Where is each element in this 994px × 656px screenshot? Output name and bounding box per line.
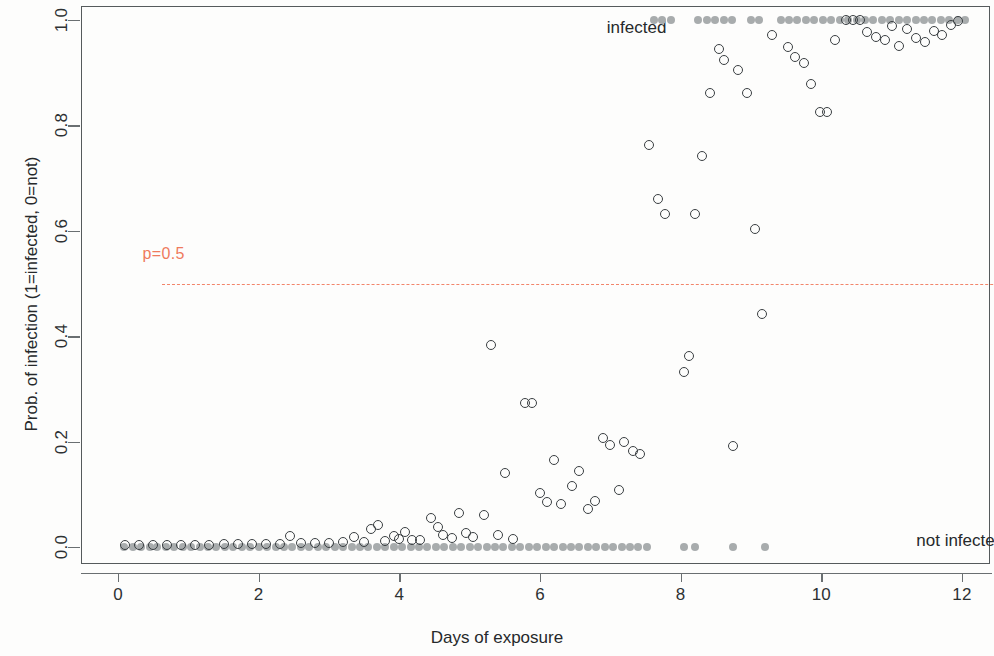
observed-outcome-marker	[761, 543, 769, 551]
observed-outcome-marker	[680, 543, 688, 551]
chart-canvas: p=0.5 infected not infected 024681012 Da…	[0, 0, 994, 656]
fitted-probability-marker	[479, 510, 489, 520]
observed-outcome-marker	[694, 16, 702, 24]
not-infected-label: not infected	[916, 531, 994, 551]
fitted-probability-marker	[493, 530, 503, 540]
x-tick-label-10: 10	[812, 585, 831, 605]
x-tick-0	[118, 573, 119, 582]
fitted-probability-marker	[614, 485, 624, 495]
observed-outcome-marker	[720, 16, 728, 24]
fitted-probability-marker	[574, 466, 584, 476]
observed-outcome-marker	[667, 16, 675, 24]
fitted-probability-marker	[556, 499, 566, 509]
fitted-probability-marker	[567, 481, 577, 491]
x-axis-line	[81, 573, 992, 574]
fitted-probability-marker	[690, 209, 700, 219]
observed-outcome-marker	[658, 16, 666, 24]
fitted-probability-marker	[296, 538, 306, 548]
observed-outcome-marker	[390, 543, 398, 551]
observed-outcome-marker	[559, 543, 567, 551]
x-tick-2	[259, 573, 260, 582]
observed-outcome-marker	[483, 543, 491, 551]
fitted-probability-marker	[359, 537, 369, 547]
observed-outcome-marker	[777, 16, 785, 24]
fitted-probability-marker	[204, 540, 214, 550]
observed-outcome-marker	[691, 543, 699, 551]
x-tick-label-6: 6	[535, 585, 545, 605]
fitted-probability-marker	[697, 151, 707, 161]
fitted-probability-marker	[447, 533, 457, 543]
fitted-probability-marker	[549, 455, 559, 465]
x-tick-6	[540, 573, 541, 582]
fitted-probability-marker	[635, 449, 645, 459]
y-tick-label-0.4: 0.4	[52, 314, 72, 358]
observed-outcome-marker	[810, 16, 818, 24]
observed-outcome-marker	[618, 543, 626, 551]
fitted-probability-marker	[134, 540, 144, 550]
threshold-label: p=0.5	[143, 245, 185, 263]
fitted-probability-marker	[120, 540, 130, 550]
fitted-probability-marker	[619, 437, 629, 447]
observed-outcome-marker	[819, 16, 827, 24]
observed-outcome-marker	[466, 543, 474, 551]
fitted-probability-marker	[338, 537, 348, 547]
fitted-probability-marker	[783, 42, 793, 52]
fitted-probability-marker	[233, 539, 243, 549]
observed-outcome-marker	[575, 543, 583, 551]
observed-outcome-marker	[609, 543, 617, 551]
fitted-probability-marker	[468, 532, 478, 542]
fitted-probability-marker	[644, 140, 654, 150]
fitted-probability-marker	[454, 508, 464, 518]
fitted-probability-marker	[887, 21, 897, 31]
x-tick-label-4: 4	[395, 585, 405, 605]
observed-outcome-marker	[634, 543, 642, 551]
observed-outcome-marker	[793, 16, 801, 24]
observed-outcome-marker	[449, 543, 457, 551]
observed-outcome-marker	[533, 543, 541, 551]
observed-outcome-marker	[474, 543, 482, 551]
fitted-probability-marker	[590, 496, 600, 506]
observed-outcome-marker	[650, 16, 658, 24]
fitted-probability-marker	[894, 41, 904, 51]
fitted-probability-marker	[714, 44, 724, 54]
y-tick-label-0.2: 0.2	[52, 420, 72, 464]
fitted-probability-marker	[953, 16, 963, 26]
plot-area: p=0.5 infected not infected	[81, 6, 990, 564]
observed-outcome-marker	[802, 16, 810, 24]
observed-outcome-marker	[747, 16, 755, 24]
observed-outcome-marker	[912, 16, 920, 24]
fitted-probability-marker	[880, 35, 890, 45]
fitted-probability-marker	[728, 441, 738, 451]
y-tick-label-0.6: 0.6	[52, 209, 72, 253]
fitted-probability-marker	[324, 538, 334, 548]
observed-outcome-marker	[584, 543, 592, 551]
fitted-probability-marker	[583, 504, 593, 514]
y-tick-label-0.0: 0.0	[52, 525, 72, 569]
fitted-probability-marker	[742, 88, 752, 98]
observed-outcome-marker	[508, 543, 516, 551]
observed-outcome-marker	[937, 16, 945, 24]
fitted-probability-marker	[653, 194, 663, 204]
fitted-probability-marker	[486, 340, 496, 350]
observed-outcome-marker	[542, 543, 550, 551]
fitted-probability-marker	[310, 538, 320, 548]
fitted-probability-marker	[799, 58, 809, 68]
fitted-probability-marker	[426, 513, 436, 523]
fitted-probability-marker	[822, 107, 832, 117]
fitted-probability-marker	[679, 367, 689, 377]
fitted-probability-marker	[806, 79, 816, 89]
fitted-probability-marker	[605, 440, 615, 450]
y-tick-label-1.0: 1.0	[52, 0, 72, 42]
observed-outcome-marker	[601, 543, 609, 551]
x-tick-label-8: 8	[676, 585, 686, 605]
fitted-probability-marker	[261, 539, 271, 549]
x-tick-10	[821, 573, 822, 582]
fitted-probability-marker	[148, 540, 158, 550]
observed-outcome-marker	[550, 543, 558, 551]
x-tick-4	[399, 573, 400, 582]
x-tick-label-0: 0	[113, 585, 123, 605]
threshold-line-p-0-5	[162, 284, 994, 285]
observed-outcome-marker	[827, 16, 835, 24]
observed-outcome-marker	[928, 16, 936, 24]
fitted-probability-marker	[937, 30, 947, 40]
